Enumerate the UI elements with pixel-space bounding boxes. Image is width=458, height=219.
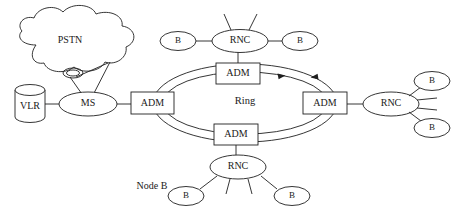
rnc-right-to-b-lower-link [409, 112, 421, 121]
rnc-bottom-node[interactable]: RNC [210, 155, 266, 179]
ring-label: Ring [235, 95, 256, 106]
rnc-right-antenna-icon [417, 98, 437, 110]
ms-label: MS [81, 97, 95, 108]
node-b-bottom-right-label: B [289, 190, 295, 200]
node-b-right-lower-label: B [429, 122, 435, 132]
node-b-bottom-left[interactable]: B [168, 187, 204, 206]
rnc-bottom-antenna-icon [226, 179, 252, 194]
rnc-bottom-to-b-right-link [261, 176, 277, 189]
rnc-top-antenna-icon [224, 14, 257, 30]
adm-right-label: ADM [313, 97, 336, 108]
rnc-right-node[interactable]: RNC [363, 92, 419, 116]
rnc-top-label: RNC [230, 34, 251, 45]
ms-node[interactable]: MS [59, 92, 117, 116]
node-b-bottom-left-label: B [183, 190, 189, 200]
rnc-right-to-b-upper-link [409, 87, 421, 96]
adm-top-node[interactable]: ADM [216, 63, 260, 84]
adm-top-label: ADM [226, 67, 249, 78]
node-b-right-upper-label: B [429, 75, 435, 85]
adm-left-node[interactable]: ADM [131, 92, 174, 114]
adm-bottom-node[interactable]: ADM [214, 124, 258, 145]
rnc-bottom-to-b-left-link [200, 176, 217, 189]
adm-left-label: ADM [141, 97, 164, 108]
network-diagram: PSTN VLR MS ADM [0, 0, 458, 219]
adm-right-node[interactable]: ADM [303, 92, 347, 114]
node-b-annotation-label: Node B [137, 180, 168, 191]
vlr-database[interactable]: VLR [15, 85, 45, 123]
node-b-top-left[interactable]: B [160, 32, 196, 51]
rnc-right-label: RNC [381, 97, 402, 108]
node-b-top-right-label: B [297, 35, 303, 45]
node-b-top-right[interactable]: B [282, 32, 318, 51]
vlr-label: VLR [20, 100, 40, 111]
node-b-bottom-right[interactable]: B [274, 187, 310, 206]
diagram-canvas: PSTN VLR MS ADM [0, 0, 458, 219]
rnc-top-node[interactable]: RNC [212, 30, 268, 53]
adm-bottom-label: ADM [224, 128, 247, 139]
pstn-cloud[interactable]: PSTN [20, 5, 134, 78]
node-b-right-lower[interactable]: B [414, 119, 450, 138]
ring-arrow-counterclockwise-icon [278, 74, 286, 80]
node-b-right-upper[interactable]: B [414, 72, 450, 91]
node-b-top-left-label: B [175, 35, 181, 45]
pstn-label: PSTN [58, 34, 82, 45]
rnc-bottom-label: RNC [228, 160, 249, 171]
